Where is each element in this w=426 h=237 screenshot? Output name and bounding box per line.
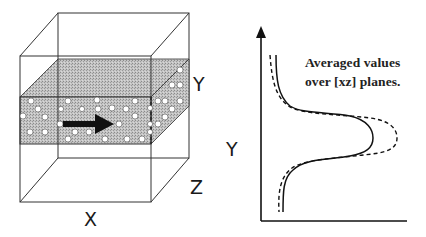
graph-y-axis-label: Y bbox=[226, 140, 238, 159]
figure: Y Z X Y Averaged values over [xz] planes… bbox=[0, 0, 426, 237]
slab-y-label: Y bbox=[193, 75, 205, 94]
diagram-canvas bbox=[0, 0, 426, 237]
y-axis-arrowhead bbox=[256, 26, 266, 38]
annotation-text: Averaged values over [xz] planes. bbox=[305, 53, 401, 91]
x-axis-label: X bbox=[84, 210, 97, 229]
annotation-line-2: over [xz] planes. bbox=[305, 72, 401, 91]
annotation-line-1: Averaged values bbox=[305, 53, 401, 72]
z-axis-label: Z bbox=[190, 178, 203, 197]
